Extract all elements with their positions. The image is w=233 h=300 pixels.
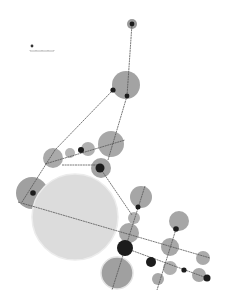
bubble-b-mid-left: [43, 148, 63, 168]
bubble-b-far-right: [169, 211, 189, 231]
node-n-upper-a: [110, 87, 115, 92]
node-n-mid: [78, 147, 84, 153]
bubble-b-huge: [32, 174, 118, 260]
bubble-b-low-b: [152, 273, 164, 285]
legend-marker-icon: [31, 45, 34, 48]
bubble-b-edge-right: [196, 251, 210, 265]
node-n-right-a: [136, 205, 141, 210]
node-n-mid-low: [96, 164, 105, 173]
node-n-hub: [117, 240, 133, 256]
legend: [30, 45, 54, 51]
bubble-b-right-c: [119, 223, 139, 243]
bubble-b-right-a: [130, 186, 152, 208]
node-n-low-b: [181, 267, 186, 272]
network-graph-canvas: [0, 0, 233, 300]
node-n-top: [130, 22, 135, 27]
bubble-b-right-b: [128, 212, 140, 224]
node-n-left: [30, 190, 36, 196]
node-n-upper-b: [125, 94, 130, 99]
node-n-low-c: [204, 275, 211, 282]
node-n-far-right: [173, 226, 179, 232]
node-n-low-a: [146, 257, 156, 267]
bubble-layer: [16, 19, 210, 289]
